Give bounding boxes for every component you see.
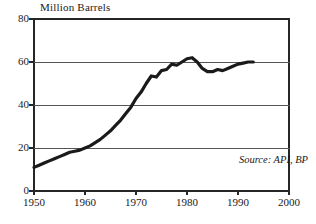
page-title: Million Barrels [40,1,111,13]
x-tick-label-1970: 1970 [125,196,147,208]
y-tick-label-40: 40 [18,98,29,110]
x-tick-label-1980: 1980 [176,196,198,208]
source-note: Source: API, BP [239,154,308,165]
x-tick-label-1960: 1960 [74,196,96,208]
x-tick-label-2000: 2000 [278,196,300,208]
x-axis-tick-labels: 195019601970198019902000 [33,196,290,214]
x-tick-label-1990: 1990 [227,196,249,208]
y-tick-label-80: 80 [18,12,29,24]
series-line-us-petroleum-stocks [34,58,253,168]
chart-page: Million Barrels 020406080 19501960197019… [0,0,316,224]
x-tick-label-1950: 1950 [23,196,45,208]
plot-area [33,18,290,192]
y-tick-label-20: 20 [18,141,29,153]
series-line-chart [33,18,290,192]
y-axis-tick-labels: 020406080 [0,0,29,224]
y-tick-label-60: 60 [18,55,29,67]
